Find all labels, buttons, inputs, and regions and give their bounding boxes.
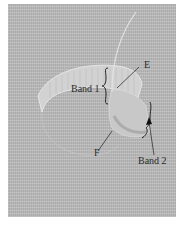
band-2-label: Band 2	[138, 156, 167, 166]
f-label: F	[94, 148, 100, 158]
band-2-leader-line	[149, 122, 154, 155]
stitch-illustration	[0, 0, 180, 230]
e-label: E	[144, 60, 150, 70]
ring-outline	[42, 112, 118, 155]
f-leader-line	[98, 131, 112, 151]
band-1-label: Band 1	[71, 84, 100, 94]
